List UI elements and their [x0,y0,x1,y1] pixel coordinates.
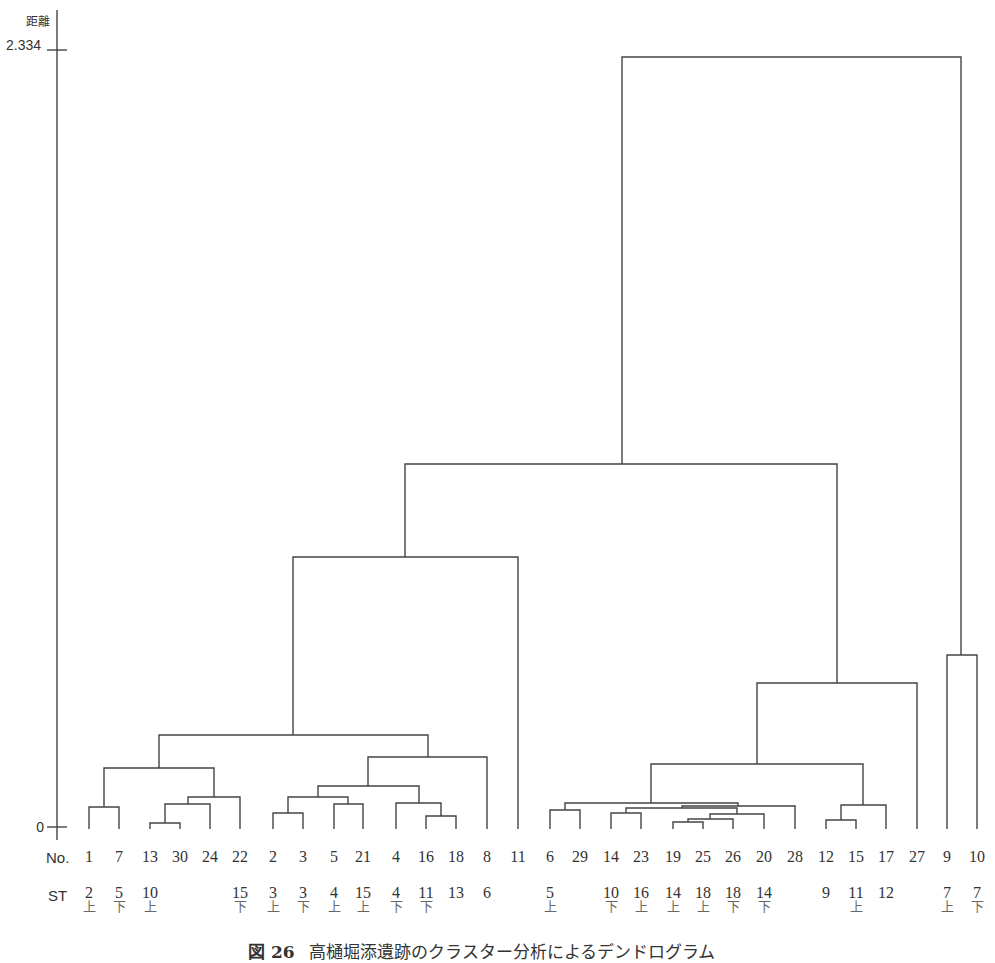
dendrogram-link [273,813,303,829]
leaf-no-label: 16 [411,848,441,866]
leaf-no-label: 15 [841,848,871,866]
leaf-st-label: 18上 [688,886,718,914]
leaf-st-label: 13 [441,886,471,900]
leaf-st-label: 4下 [381,886,411,914]
leaf-no-label: 9 [932,848,962,866]
dendrogram-link [673,822,703,829]
dendrogram-link [104,768,214,807]
leaf-st-label: 14下 [749,886,779,914]
leaf-no-label: 7 [104,848,134,866]
dendrogram-link [405,464,837,683]
leaf-no-label: 30 [165,848,195,866]
leaf-st-label: 3上 [258,886,288,914]
dendrogram-link [293,557,518,829]
dendrogram-link [334,804,363,829]
leaf-no-label: 22 [225,848,255,866]
leaf-st-label: 5上 [535,886,565,914]
leaf-no-label: 21 [348,848,378,866]
leaf-no-label: 3 [288,848,318,866]
leaf-no-label: 20 [749,848,779,866]
dendrogram-link [165,804,210,829]
dendrogram-link [710,814,764,829]
leaf-st-label: 14上 [658,886,688,914]
dendrogram-link [318,786,419,803]
dendrogram-link [426,816,456,829]
leaf-st-label: 4上 [319,886,349,914]
leaf-no-label: 12 [811,848,841,866]
leaf-no-label: 4 [381,848,411,866]
leaf-st-label: 18下 [718,886,748,914]
leaf-no-label: 6 [535,848,565,866]
leaf-no-label: 2 [258,848,288,866]
dendrogram-link [150,823,180,829]
dendrogram-link [626,808,737,814]
leaf-no-label: 25 [688,848,718,866]
leaf-st-label: 2上 [74,886,104,914]
dendrogram-link [159,735,428,768]
dendrogram-link [611,813,641,829]
leaf-no-label: 24 [195,848,225,866]
leaf-st-label: 11下 [411,886,441,914]
leaf-no-label: 28 [780,848,810,866]
leaf-st-label: 10上 [135,886,165,914]
dendrogram-link [688,819,733,829]
leaf-no-label: 26 [718,848,748,866]
leaf-st-label: 10下 [596,886,626,914]
leaf-no-label: 27 [902,848,932,866]
leaf-st-label: 12 [871,886,901,900]
dendrogram-link [682,806,795,829]
leaf-no-label: 18 [441,848,471,866]
leaf-st-label: 7下 [962,886,992,914]
leaf-st-label: 6 [472,886,502,900]
dendrogram-link [188,797,240,829]
dendrogram-link [651,764,863,805]
dendrogram-link [368,757,487,829]
leaf-st-label: 3下 [288,886,318,914]
dendrogram-link [288,797,348,813]
leaf-st-label: 9 [811,886,841,900]
dendrogram-link [841,805,886,829]
leaf-no-label: 23 [626,848,656,866]
figure-number: 図 26 [248,942,295,962]
dendrogram-link [622,57,961,655]
dendrogram-links [89,57,977,829]
leaf-st-label: 7上 [932,886,962,914]
leaf-no-label: 10 [962,848,992,866]
leaf-no-label: 17 [871,848,901,866]
leaf-no-label: 11 [503,848,533,866]
leaf-st-label: 15下 [225,886,255,914]
leaf-no-label: 5 [319,848,349,866]
leaf-no-label: 29 [565,848,595,866]
dendrogram-link [947,655,977,829]
dendrogram-link [757,683,917,829]
leaf-st-label: 5下 [104,886,134,914]
leaf-st-label: 15上 [348,886,378,914]
dendrogram-link [826,820,856,829]
leaf-no-label: 8 [472,848,502,866]
leaf-no-label: 13 [135,848,165,866]
dendrogram-link [550,810,580,829]
figure-caption: 図 26高樋堀添遺跡のクラスター分析によるデンドログラム [248,938,715,963]
caption-text: 高樋堀添遺跡のクラスター分析によるデンドログラム [309,942,715,962]
leaf-st-label: 11上 [841,886,871,914]
leaf-no-label: 19 [658,848,688,866]
leaf-no-label: 14 [596,848,626,866]
dendrogram-link [89,807,119,829]
leaf-no-label: 1 [74,848,104,866]
leaf-st-label: 16上 [626,886,656,914]
